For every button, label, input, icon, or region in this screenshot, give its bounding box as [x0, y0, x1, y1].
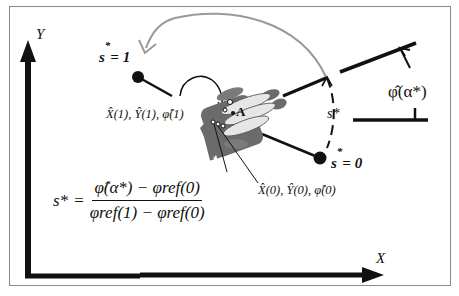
- formula-denominator: φref(1) − φref(0): [90, 201, 205, 223]
- x-axis-label: X: [376, 250, 385, 267]
- y-axis: [20, 40, 36, 276]
- pose-start-label: X̂(0), Ŷ(0), φ̂(0): [258, 183, 336, 198]
- arc-s-star-label: s*: [327, 106, 339, 122]
- hand-graphic: [199, 85, 289, 183]
- diagram-canvas: [0, 0, 459, 296]
- formula-fraction: φ̂(α*) − φref(0) φref(1) − φref(0): [90, 178, 205, 223]
- rotation-hint-arrow: [180, 77, 222, 108]
- rotation-arc: [146, 14, 326, 77]
- pose-end-label: X̂(1), Ŷ(1), φ̂(1): [106, 107, 184, 122]
- angle-label: φ̂(α*): [388, 82, 427, 102]
- point-s1: [132, 71, 172, 96]
- formula-lhs: s*: [53, 191, 68, 211]
- s-star-one-label: s*= 1: [99, 46, 130, 66]
- point-a-label: A: [236, 104, 245, 120]
- formula-numerator: φ̂(α*) − φref(0): [92, 178, 202, 201]
- x-axis: [25, 267, 384, 283]
- formula-equals: =: [74, 191, 84, 211]
- point-s0: [262, 134, 327, 165]
- s-star-formula: s* = φ̂(α*) − φref(0) φref(1) − φref(0): [53, 178, 205, 223]
- y-axis-label: Y: [36, 26, 44, 43]
- s-star-zero-label: s*= 0: [331, 152, 362, 172]
